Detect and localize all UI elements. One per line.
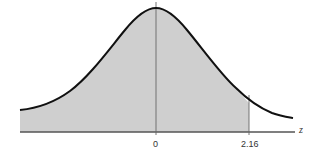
axis-label-z: z (299, 124, 303, 135)
tick-label-zero: 0 (153, 139, 158, 149)
normal-curve-chart (0, 0, 317, 160)
tick-label-cutoff: 2.16 (241, 139, 259, 149)
shaded-area (20, 8, 249, 132)
